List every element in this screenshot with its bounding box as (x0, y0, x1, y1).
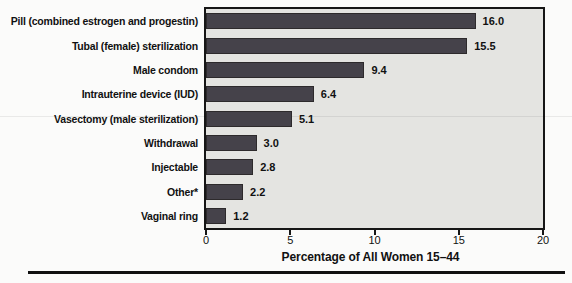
bar (206, 38, 467, 54)
bar (206, 86, 314, 102)
bar (206, 62, 364, 78)
category-label: Intrauterine device (IUD) (0, 86, 198, 102)
category-label: Vaginal ring (0, 208, 198, 224)
category-label: Pill (combined estrogen and progestin) (0, 13, 198, 29)
value-label: 6.4 (321, 86, 336, 102)
value-label: 2.2 (250, 184, 265, 200)
category-label: Withdrawal (0, 135, 198, 151)
bar (206, 135, 257, 151)
value-label: 16.0 (483, 13, 504, 29)
value-label: 9.4 (371, 62, 386, 78)
value-label: 1.2 (233, 208, 248, 224)
x-axis-tick-label: 15 (444, 234, 474, 246)
value-label: 15.5 (474, 38, 495, 54)
value-label: 3.0 (264, 135, 279, 151)
x-axis-tick-label: 0 (191, 234, 221, 246)
value-label: 5.1 (299, 111, 314, 127)
bar (206, 13, 476, 29)
x-axis-tick-label: 5 (275, 234, 305, 246)
category-label: Male condom (0, 62, 198, 78)
category-label: Tubal (female) sterilization (0, 38, 198, 54)
category-label: Injectable (0, 159, 198, 175)
bar (206, 184, 243, 200)
bar (206, 208, 226, 224)
category-label: Vasectomy (male sterilization) (0, 111, 198, 127)
bar (206, 159, 253, 175)
category-label: Other* (0, 184, 198, 200)
contraceptive-methods-bar-chart: Pill (combined estrogen and progestin)Tu… (0, 0, 572, 283)
bar (206, 111, 292, 127)
bottom-rule-line (28, 271, 565, 274)
x-axis-title: Percentage of All Women 15–44 (200, 250, 541, 264)
x-axis-tick-label: 20 (528, 234, 558, 246)
x-axis-tick-label: 10 (360, 234, 390, 246)
value-label: 2.8 (260, 159, 275, 175)
